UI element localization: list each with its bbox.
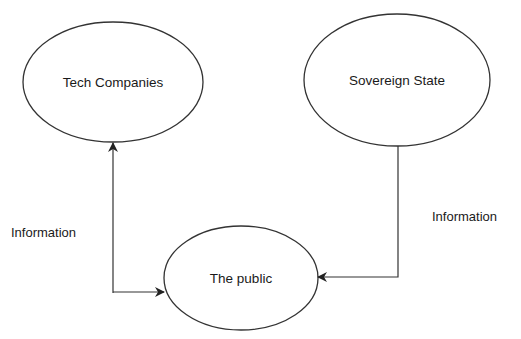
edge-tech-to-public[interactable] — [113, 143, 164, 293]
diagram-canvas: Tech Companies Sovereign State The publi… — [0, 0, 521, 339]
node-sovereign-state[interactable]: Sovereign State — [304, 14, 490, 146]
node-the-public-label: The public — [210, 271, 273, 286]
node-tech-companies[interactable]: Tech Companies — [23, 22, 203, 142]
edge-label-state-public: Information — [432, 209, 497, 224]
node-tech-companies-label: Tech Companies — [63, 75, 164, 90]
node-the-public[interactable]: The public — [164, 226, 318, 330]
edge-label-tech-public: Information — [11, 225, 76, 240]
node-sovereign-state-label: Sovereign State — [349, 73, 445, 88]
edge-state-to-public[interactable] — [318, 146, 398, 277]
